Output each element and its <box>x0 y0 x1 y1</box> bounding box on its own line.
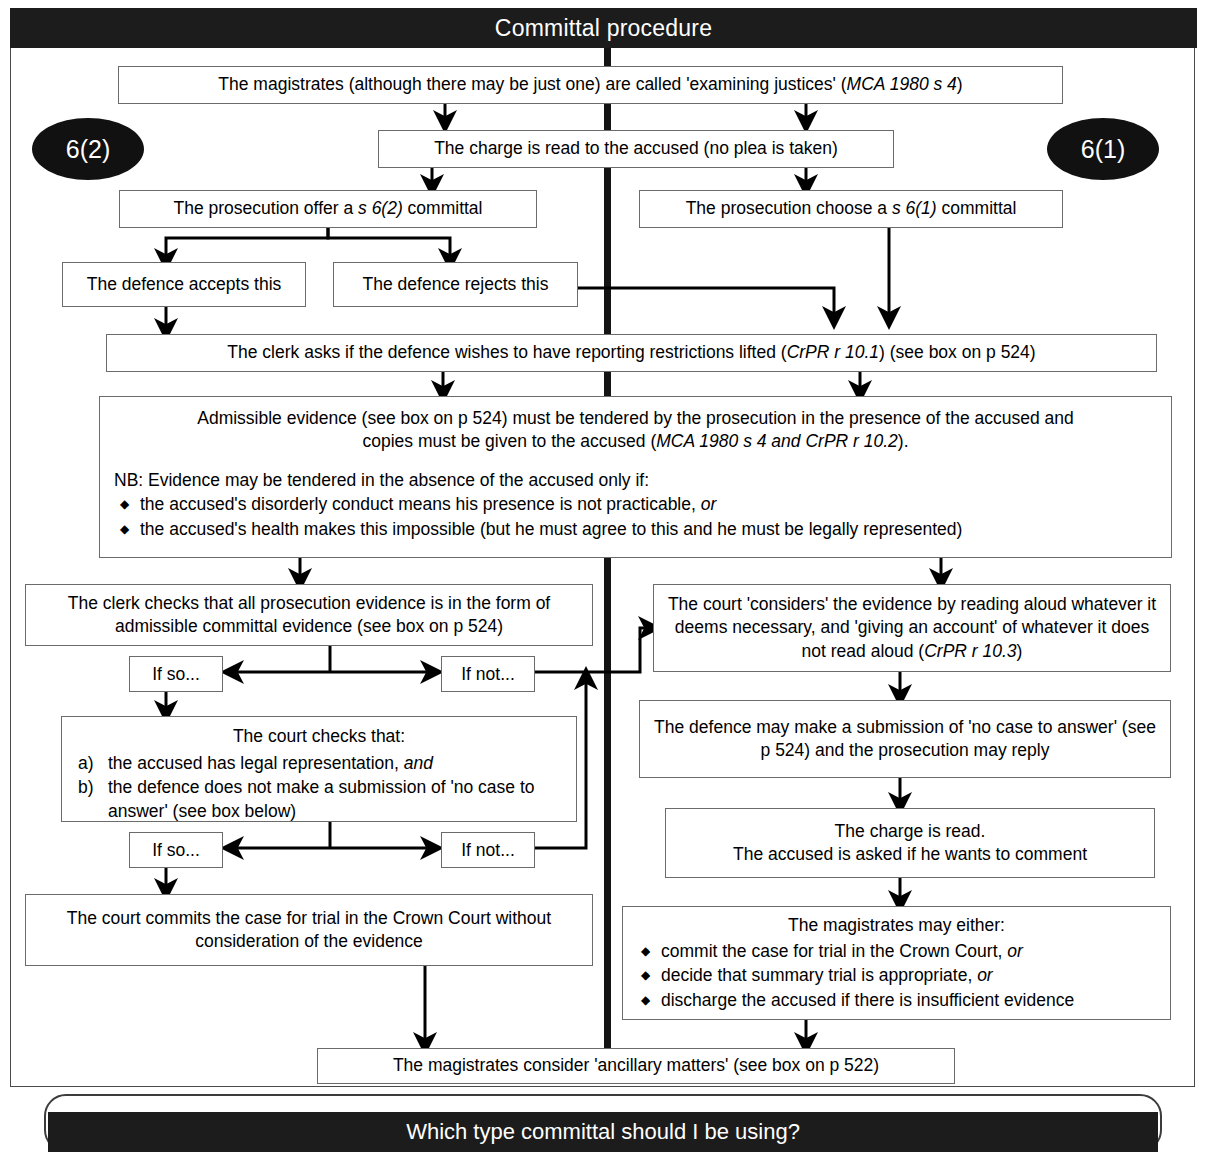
node-magistrates-may-either: The magistrates may either: commit the c… <box>622 906 1171 1020</box>
tag-if-so-upper: If so... <box>129 656 223 692</box>
diagram-canvas: Committal procedure 6(2) 6(1) <box>0 0 1207 1152</box>
text-tail: ). <box>898 431 909 451</box>
text-tail: committal <box>403 198 483 218</box>
text-plain: The clerk asks if the defence wishes to … <box>227 342 786 362</box>
node-defence-accepts-text: The defence accepts this <box>71 273 297 296</box>
tag-if-not-lower-label: If not... <box>461 840 515 861</box>
bullet-text: the accused's health makes this impossib… <box>140 519 962 539</box>
text-plain: copies must be given to the accused ( <box>362 431 656 451</box>
node-charge-read: The charge is read to the accused (no pl… <box>378 130 894 168</box>
text-tail: committal <box>937 198 1017 218</box>
tag-if-not-upper: If not... <box>441 656 535 692</box>
text-italic: s 6(1) <box>892 198 937 218</box>
section-bubble-s6-2: 6(2) <box>32 118 144 180</box>
item-label: b) <box>78 776 94 799</box>
bullet-text: discharge the accused if there is insuff… <box>661 990 1074 1010</box>
node-examining-justices-text: The magistrates (although there may be j… <box>127 73 1054 96</box>
list-item: discharge the accused if there is insuff… <box>635 989 1158 1012</box>
section-bubble-s6-1: 6(1) <box>1047 118 1159 180</box>
node-prosecution-choose-text: The prosecution choose a s 6(1) committa… <box>648 197 1054 220</box>
page-title-banner: Committal procedure <box>10 8 1197 48</box>
text-plain: The court 'considers' the evidence by re… <box>668 594 1156 660</box>
court-checks-items: a)the accused has legal representation, … <box>74 751 564 824</box>
list-item: a)the accused has legal representation, … <box>74 752 564 775</box>
node-court-checks-that: The court checks that: a)the accused has… <box>61 716 577 822</box>
node-court-considers-evidence: The court 'considers' the evidence by re… <box>653 584 1171 672</box>
node-clerk-checks-text: The clerk checks that all prosecution ev… <box>34 592 584 638</box>
list-item: b)the defence does not make a submission… <box>74 776 564 823</box>
node-clerk-asks-reporting-restrictions: The clerk asks if the defence wishes to … <box>106 334 1157 372</box>
list-item: commit the case for trial in the Crown C… <box>635 940 1158 963</box>
text-tail: ) <box>957 74 963 94</box>
page-title: Committal procedure <box>495 15 712 42</box>
section-bubble-s6-1-label: 6(1) <box>1081 135 1125 164</box>
tag-if-not-lower: If not... <box>441 832 535 868</box>
tag-if-so-upper-label: If so... <box>152 664 200 685</box>
list-item: the accused's health makes this impossib… <box>114 518 1157 541</box>
text-italic: CrPR r 10.3 <box>924 641 1016 661</box>
node-prosecution-choose-s6-1: The prosecution choose a s 6(1) committa… <box>639 190 1063 228</box>
admissible-line-1: Admissible evidence (see box on p 524) m… <box>197 408 1074 428</box>
section-divider <box>604 48 611 1084</box>
node-court-commits-text: The court commits the case for trial in … <box>34 907 584 953</box>
bullet-italic: or <box>977 965 993 985</box>
text-italic: CrPR r 10.1 <box>787 342 879 362</box>
node-defence-submission-text: The defence may make a submission of 'no… <box>648 716 1162 762</box>
magistrates-may-heading: The magistrates may either: <box>635 914 1158 937</box>
bullet-italic: or <box>1007 941 1023 961</box>
node-admissible-evidence: Admissible evidence (see box on p 524) m… <box>99 396 1172 558</box>
text-italic: MCA 1980 s 4 <box>847 74 957 94</box>
magistrates-may-bullets: commit the case for trial in the Crown C… <box>635 939 1158 1013</box>
list-item: the accused's disorderly conduct means h… <box>114 493 1157 516</box>
charge-read-2-line-1: The charge is read. <box>674 820 1146 843</box>
bullet-text: commit the case for trial in the Crown C… <box>661 941 1007 961</box>
node-charge-read-accused-comment: The charge is read. The accused is asked… <box>665 808 1155 878</box>
text-plain: The prosecution offer a <box>174 198 359 218</box>
bullet-text: decide that summary trial is appropriate… <box>661 965 977 985</box>
node-defence-rejects-text: The defence rejects this <box>342 273 569 296</box>
text-italic: MCA 1980 s 4 and CrPR r 10.2 <box>656 431 898 451</box>
tag-if-not-upper-label: If not... <box>461 664 515 685</box>
bottom-banner-title: Which type committal should I be using? <box>406 1119 800 1145</box>
admissible-evidence-nb: NB: Evidence may be tendered in the abse… <box>114 469 1157 492</box>
node-charge-read-text: The charge is read to the accused (no pl… <box>387 137 885 160</box>
admissible-evidence-para: Admissible evidence (see box on p 524) m… <box>114 407 1157 453</box>
item-text: the accused has legal representation, <box>108 753 404 773</box>
node-ancillary-matters-text: The magistrates consider 'ancillary matt… <box>326 1054 946 1077</box>
text-italic: s 6(2) <box>358 198 403 218</box>
node-court-considers-text: The court 'considers' the evidence by re… <box>662 593 1162 662</box>
node-prosecution-offer-s6-2: The prosecution offer a s 6(2) committal <box>119 190 537 228</box>
text-tail: ) (see box on p 524) <box>879 342 1036 362</box>
node-clerk-checks-evidence-form: The clerk checks that all prosecution ev… <box>25 584 593 646</box>
section-bubble-s6-2-label: 6(2) <box>66 135 110 164</box>
charge-read-2-line-2: The accused is asked if he wants to comm… <box>674 843 1146 866</box>
node-defence-submission-no-case: The defence may make a submission of 'no… <box>639 700 1171 778</box>
node-clerk-asks-text: The clerk asks if the defence wishes to … <box>115 341 1148 364</box>
node-defence-accepts: The defence accepts this <box>62 262 306 307</box>
node-defence-rejects: The defence rejects this <box>333 262 578 307</box>
court-checks-heading: The court checks that: <box>74 725 564 748</box>
tag-if-so-lower-label: If so... <box>152 840 200 861</box>
bottom-banner: Which type committal should I be using? <box>48 1112 1158 1152</box>
node-examining-justices: The magistrates (although there may be j… <box>118 66 1063 104</box>
bullet-text: the accused's disorderly conduct means h… <box>140 494 701 514</box>
node-prosecution-offer-text: The prosecution offer a s 6(2) committal <box>128 197 528 220</box>
admissible-evidence-bullets: the accused's disorderly conduct means h… <box>114 492 1157 542</box>
node-ancillary-matters: The magistrates consider 'ancillary matt… <box>317 1048 955 1084</box>
item-label: a) <box>78 752 94 775</box>
text-plain: The magistrates (although there may be j… <box>218 74 846 94</box>
text-tail: ) <box>1017 641 1023 661</box>
node-court-commits-case: The court commits the case for trial in … <box>25 894 593 966</box>
list-item: decide that summary trial is appropriate… <box>635 964 1158 987</box>
item-italic: and <box>404 753 433 773</box>
item-text: the defence does not make a submission o… <box>108 777 535 820</box>
text-plain: The prosecution choose a <box>686 198 892 218</box>
tag-if-so-lower: If so... <box>129 832 223 868</box>
bullet-italic: or <box>701 494 717 514</box>
